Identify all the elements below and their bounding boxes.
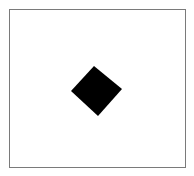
diagram-canvas [0,0,194,176]
black-diamond-shape [71,66,122,116]
